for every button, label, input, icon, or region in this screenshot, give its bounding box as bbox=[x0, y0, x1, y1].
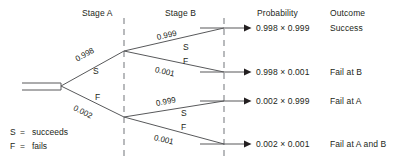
branch-label-letter-b2-success: S bbox=[181, 108, 187, 118]
legend-equals-f: = bbox=[20, 141, 32, 151]
outcome-label-4: Fail at A and B bbox=[330, 139, 386, 149]
legend-row-succeeds: S=succeeds bbox=[10, 127, 68, 137]
arrowhead-3 bbox=[244, 97, 252, 104]
outcome-arrowheads bbox=[244, 24, 252, 147]
column-header-outcome: Outcome bbox=[330, 8, 365, 18]
column-header-probability: Probability bbox=[257, 8, 298, 18]
legend-equals-s: = bbox=[20, 127, 32, 137]
arrowhead-1 bbox=[244, 24, 252, 31]
outcome-label-2: Fail at B bbox=[330, 67, 362, 77]
stage-b-branches bbox=[124, 28, 224, 144]
probability-value-1: 0.998 × 0.999 bbox=[256, 23, 310, 33]
branch-label-letter-b2-fail: F bbox=[181, 122, 186, 132]
probability-value-4: 0.002 × 0.001 bbox=[256, 139, 310, 149]
legend-row-fails: F=fails bbox=[10, 141, 47, 151]
stage-a-branches bbox=[61, 51, 124, 117]
branch-b2-fail bbox=[124, 117, 224, 144]
legend-meaning-fails: fails bbox=[32, 141, 47, 151]
outcome-label-3: Fail at A bbox=[330, 96, 362, 106]
root-trunk bbox=[22, 83, 61, 90]
branch-label-letter-b1-fail: F bbox=[183, 56, 188, 66]
outcome-label-1: Success bbox=[330, 23, 363, 33]
branch-label-letter-a-success: S bbox=[93, 66, 99, 76]
arrowhead-4 bbox=[244, 140, 252, 147]
arrowhead-2 bbox=[244, 68, 252, 75]
legend-symbol-f: F bbox=[10, 141, 20, 151]
probability-tree-diagram: Stage A Stage B Probability Outcome 0.99… bbox=[0, 0, 398, 164]
probability-value-3: 0.002 × 0.999 bbox=[256, 96, 310, 106]
branch-label-letter-a-fail: F bbox=[95, 92, 100, 102]
legend-meaning-succeeds: succeeds bbox=[32, 127, 68, 137]
column-header-stage-a: Stage A bbox=[82, 8, 112, 18]
branch-label-letter-b1-success: S bbox=[183, 42, 189, 52]
probability-value-2: 0.998 × 0.001 bbox=[256, 67, 310, 77]
outcome-arrows bbox=[200, 28, 246, 144]
column-header-stage-b: Stage B bbox=[165, 8, 196, 18]
legend-symbol-s: S bbox=[10, 127, 20, 137]
